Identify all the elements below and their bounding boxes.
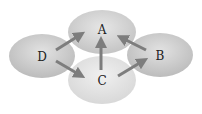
node-a-label: A	[97, 23, 107, 37]
node-d: D	[9, 34, 75, 78]
node-d-label: D	[37, 50, 47, 64]
node-b-label: B	[156, 49, 165, 63]
diagram-canvas: C D B A	[0, 0, 202, 114]
node-b: B	[127, 33, 193, 77]
node-c-label: C	[97, 74, 106, 88]
